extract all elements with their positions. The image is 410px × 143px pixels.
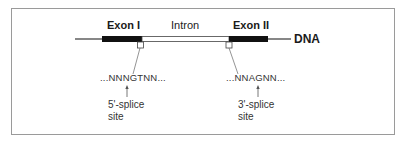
3-splice-site-label: 3'-splice site [238, 99, 274, 123]
3-splice-sequence: ...NNAGNN... [226, 72, 285, 83]
intron-label: Intron [171, 19, 199, 31]
exon-1-bar [102, 36, 142, 42]
intron-bar [142, 37, 229, 42]
5-splice-marker [138, 42, 144, 48]
exon-1-label: Exon I [107, 19, 140, 31]
3-splice-label-line2: site [238, 111, 274, 123]
5-splice-label-line1: 5'-splice [108, 99, 144, 111]
3-splice-marker [226, 42, 232, 48]
gene-diagram-graphic [0, 0, 410, 143]
exon-2-bar [229, 36, 268, 42]
dna-label: DNA [294, 32, 320, 46]
3-splice-label-line1: 3'-splice [238, 99, 274, 111]
5-splice-arrowhead-icon [125, 85, 128, 89]
5-splice-sequence: ...NNNGTNN... [100, 72, 166, 83]
3-splice-arrowhead-icon [256, 85, 259, 89]
exon-2-label: Exon II [233, 19, 269, 31]
5-splice-site-label: 5'-splice site [108, 99, 144, 123]
5-splice-pointer-line [133, 48, 140, 74]
3-splice-pointer-line [229, 48, 238, 74]
5-splice-label-line2: site [108, 111, 144, 123]
